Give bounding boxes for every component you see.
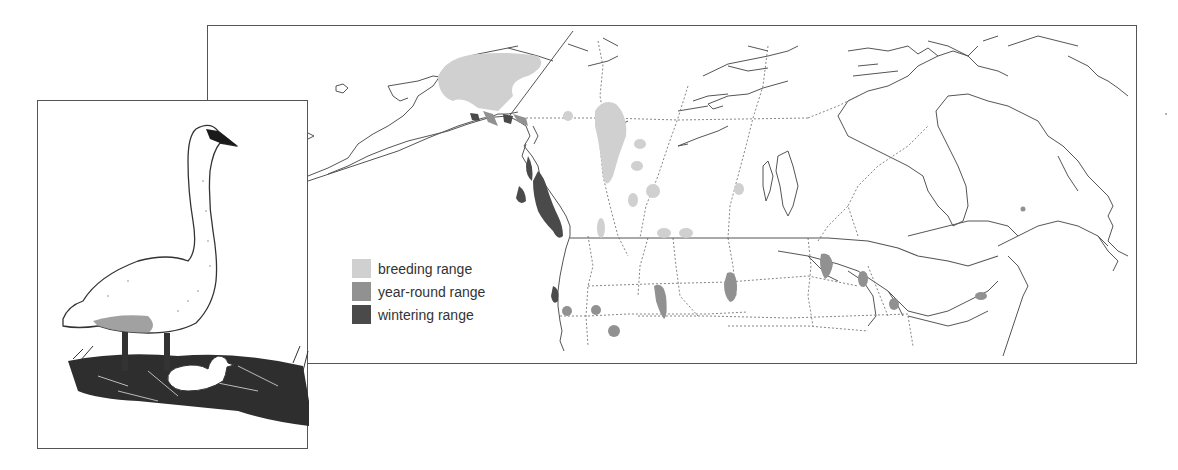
legend-item-breeding: breeding range xyxy=(352,257,485,280)
stray-mark xyxy=(1165,113,1167,115)
legend-label: year-round range xyxy=(378,284,485,300)
political-boundaries xyxy=(518,41,928,346)
swan-illustration xyxy=(37,100,308,449)
swan-drawing xyxy=(38,101,309,450)
legend-label: breeding range xyxy=(378,261,472,277)
map-graphic xyxy=(208,26,1138,365)
adult-swan xyxy=(63,125,236,333)
map-legend: breeding range year-round range winterin… xyxy=(352,257,485,326)
year-round-range-areas xyxy=(483,111,1026,337)
legend-item-year-round: year-round range xyxy=(352,280,485,303)
breeding-swatch xyxy=(352,259,371,278)
year-round-swatch xyxy=(352,282,371,301)
range-map xyxy=(207,25,1137,364)
breeding-range-areas xyxy=(438,53,744,238)
us-canada-border-east xyxy=(828,238,998,266)
wintering-swatch xyxy=(352,305,371,324)
legend-item-wintering: wintering range xyxy=(352,303,485,326)
swan-leg-right xyxy=(164,333,170,371)
swan-leg-left xyxy=(122,331,128,371)
legend-label: wintering range xyxy=(378,307,474,323)
